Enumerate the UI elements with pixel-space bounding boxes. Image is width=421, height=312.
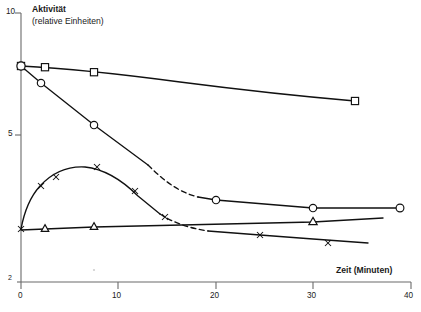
marker-triangle (309, 217, 317, 224)
marker-x (325, 240, 331, 246)
y-tick-label-5: 5 (8, 129, 13, 138)
y-axis-title-unit: (relative Einheiten) (32, 16, 104, 26)
x-tick-label-20: 20 (210, 291, 219, 300)
axis-group (15, 13, 411, 289)
marker-circle (396, 204, 404, 212)
chart-figure: 10 5 2 Aktivität (relative Einheiten) 0 … (0, 0, 421, 312)
y-axis-title: Aktivität (32, 4, 66, 14)
series-squares (17, 62, 358, 104)
marker-triangle (90, 223, 98, 230)
x-tick-label-40: 40 (404, 291, 413, 300)
marker-x (38, 183, 44, 189)
marker-circle (309, 204, 316, 211)
y-tick-label-10: 10 (6, 7, 15, 16)
x-axis-title: Zeit (Minuten) (336, 265, 392, 275)
x-tick-label-30: 30 (307, 291, 316, 300)
series-circles-line-lower (198, 197, 400, 208)
marker-triangle (41, 225, 49, 232)
marker-x (162, 214, 168, 220)
series-circles (17, 62, 404, 212)
series-x-hump-line-tail (208, 231, 368, 243)
marker-circle (37, 79, 44, 86)
marker-circle (212, 196, 219, 203)
marker-square (90, 69, 97, 76)
y-tick-label-origin: 2 (8, 274, 12, 281)
marker-circle (90, 121, 97, 128)
marker-circle (17, 62, 25, 70)
marker-square (351, 97, 358, 104)
series-triangles-line (21, 218, 383, 230)
marker-square (41, 64, 48, 71)
series-triangles (21, 217, 383, 231)
marker-x (53, 174, 59, 180)
x-tick-label-0: 0 (18, 291, 23, 300)
x-tick-label-10: 10 (112, 291, 121, 300)
print-speck (93, 269, 95, 271)
series-x-hump-line-rise (21, 167, 160, 229)
series-squares-line (21, 66, 355, 101)
series-circles-line-dashed (148, 165, 198, 197)
series-x-hump-line-dashed (160, 214, 208, 231)
